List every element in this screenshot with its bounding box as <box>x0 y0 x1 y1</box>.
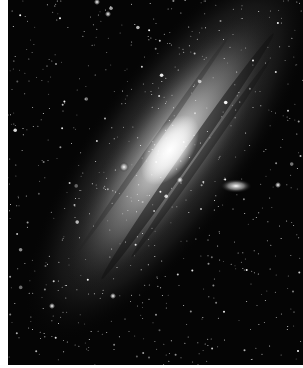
galaxy-illustration <box>8 0 303 365</box>
galaxy-image <box>8 0 303 365</box>
satellite-galaxy-elliptical <box>220 179 252 193</box>
satellite-galaxy-compact <box>119 162 129 172</box>
